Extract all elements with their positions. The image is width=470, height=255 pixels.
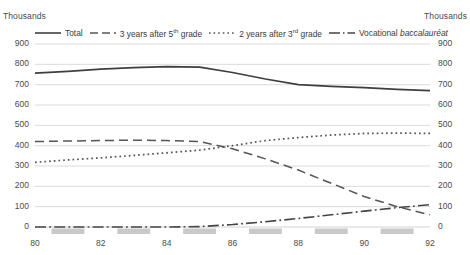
y-tick-right-0: 0 bbox=[438, 221, 464, 231]
chart-container: Thousands Thousands Total 3 years after … bbox=[0, 0, 470, 255]
y-tick-left-800: 800 bbox=[3, 58, 29, 68]
x-tick-90: 90 bbox=[352, 238, 376, 248]
plot-area bbox=[0, 0, 470, 255]
x-tick-82: 82 bbox=[89, 238, 113, 248]
x-tick-92: 92 bbox=[418, 238, 442, 248]
y-tick-left-300: 300 bbox=[3, 160, 29, 170]
y-tick-right-900: 900 bbox=[438, 38, 464, 48]
y-tick-left-200: 200 bbox=[3, 180, 29, 190]
y-tick-left-400: 400 bbox=[3, 140, 29, 150]
series-line-2 bbox=[35, 133, 430, 162]
y-tick-left-0: 0 bbox=[3, 221, 29, 231]
y-tick-right-200: 200 bbox=[438, 180, 464, 190]
y-tick-right-600: 600 bbox=[438, 99, 464, 109]
y-tick-left-500: 500 bbox=[3, 119, 29, 129]
y-tick-left-600: 600 bbox=[3, 99, 29, 109]
gridlines bbox=[35, 44, 430, 227]
y-tick-left-100: 100 bbox=[3, 201, 29, 211]
x-tick-84: 84 bbox=[155, 238, 179, 248]
series-line-3 bbox=[35, 205, 430, 227]
y-tick-right-700: 700 bbox=[438, 79, 464, 89]
y-tick-right-400: 400 bbox=[438, 140, 464, 150]
y-tick-right-500: 500 bbox=[438, 119, 464, 129]
y-tick-left-700: 700 bbox=[3, 79, 29, 89]
y-tick-right-300: 300 bbox=[438, 160, 464, 170]
y-tick-right-100: 100 bbox=[438, 201, 464, 211]
data-series bbox=[35, 67, 430, 227]
series-line-0 bbox=[35, 67, 430, 91]
y-tick-right-800: 800 bbox=[438, 58, 464, 68]
x-tick-80: 80 bbox=[23, 238, 47, 248]
series-line-1 bbox=[35, 140, 430, 215]
x-tick-88: 88 bbox=[286, 238, 310, 248]
x-tick-86: 86 bbox=[221, 238, 245, 248]
y-tick-left-900: 900 bbox=[3, 38, 29, 48]
x-axis-bands bbox=[51, 229, 413, 235]
